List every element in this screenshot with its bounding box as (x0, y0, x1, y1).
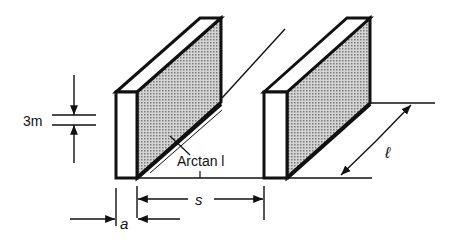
length-label: ℓ (384, 144, 391, 161)
right-plate (264, 18, 370, 178)
thickness-dimension: a (70, 188, 180, 232)
gap-height-label: 3m (23, 113, 42, 129)
gap-height-dimension: 3m (23, 75, 96, 163)
plates-diagram: 3m Arctan l s a ℓ (0, 0, 456, 240)
thickness-label: a (120, 215, 128, 232)
spacing-label: s (195, 191, 203, 208)
angle-label: Arctan l (177, 153, 224, 169)
spacing-dimension: s (137, 186, 264, 220)
